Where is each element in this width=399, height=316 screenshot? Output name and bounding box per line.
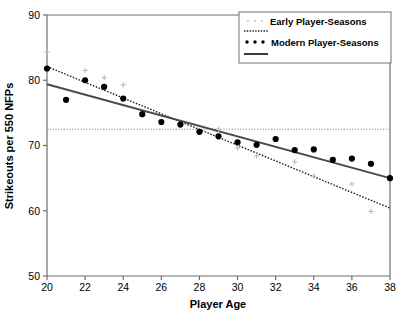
data-point: [330, 157, 336, 163]
x-axis-title: Player Age: [190, 298, 246, 310]
data-point: [349, 155, 355, 161]
x-tick-label: 20: [41, 281, 53, 293]
data-point: [254, 142, 260, 148]
data-point: [177, 122, 183, 128]
x-tick-label: 28: [194, 281, 206, 293]
legend-label-modern: Modern Player-Seasons: [271, 37, 379, 48]
x-tick-label: 30: [232, 281, 244, 293]
data-point: [44, 65, 50, 71]
x-tick-label: 38: [384, 281, 396, 293]
x-tick-label: 26: [155, 281, 167, 293]
data-point: [82, 77, 88, 83]
data-point: [139, 111, 145, 117]
x-tick-label: 36: [346, 281, 358, 293]
data-point: [101, 84, 107, 90]
data-point: [234, 139, 240, 145]
data-point: [196, 129, 202, 135]
legend-sample-dots-black: [245, 40, 264, 43]
chart-figure: 5060708090 20222426283032343638 Player A…: [0, 0, 399, 316]
data-point: [158, 119, 164, 125]
data-point: [387, 175, 393, 181]
y-tick-label: 90: [28, 9, 40, 21]
data-point: [273, 136, 279, 142]
y-tick-label: 60: [28, 205, 40, 217]
x-tick-label: 24: [117, 281, 129, 293]
legend-label-early: Early Player-Seasons: [270, 16, 367, 27]
x-tick-label: 34: [308, 281, 320, 293]
data-point: [63, 97, 69, 103]
y-axis-title: Strikeouts per 550 NFPs: [3, 83, 15, 210]
y-tick-label: 80: [28, 74, 40, 86]
data-point: [311, 146, 317, 152]
data-point: [215, 133, 221, 139]
y-tick-label: 50: [28, 270, 40, 282]
data-point: [292, 147, 298, 153]
chart-legend: Early Player-Seasons Modern Player-Seaso…: [239, 12, 391, 63]
data-point: [368, 161, 374, 167]
x-tick-label: 32: [270, 281, 282, 293]
y-tick-label: 70: [28, 139, 40, 151]
x-tick-label: 22: [79, 281, 91, 293]
data-point: [120, 95, 126, 101]
